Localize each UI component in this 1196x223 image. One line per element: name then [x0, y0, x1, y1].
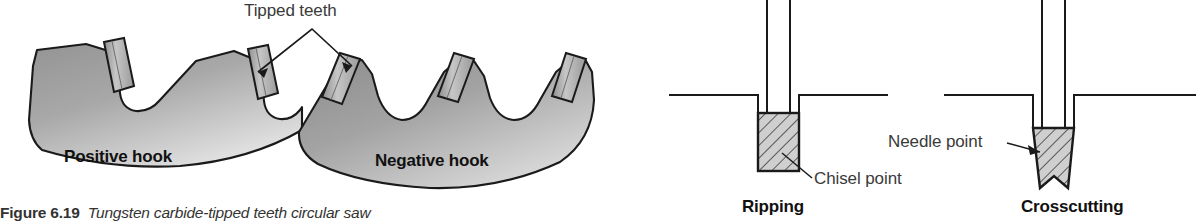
figure-caption-text: Tungsten carbide-tipped teeth circular s… — [88, 204, 371, 221]
needle-point-tooth — [1033, 128, 1074, 188]
label-needle-point: Needle point — [888, 133, 982, 150]
crosscutting-diagram — [944, 0, 1196, 188]
tooth-point-diagram — [0, 0, 1196, 223]
crosscut-kerf-right — [1074, 95, 1196, 128]
label-tipped-teeth: Tipped teeth — [244, 2, 337, 19]
crosscut-kerf-left — [944, 95, 1033, 128]
label-chisel-point: Chisel point — [814, 170, 902, 187]
figure-caption: Figure 6.19 Tungsten carbide-tipped teet… — [0, 205, 370, 221]
label-positive-hook: Positive hook — [64, 148, 172, 165]
label-ripping: Ripping — [742, 198, 804, 215]
label-crosscutting: Crosscutting — [1021, 198, 1123, 215]
ripping-kerf-right — [799, 95, 888, 113]
figure-caption-number: Figure 6.19 — [0, 204, 80, 221]
figure-caption-spacer — [80, 204, 88, 221]
ripping-kerf-left — [669, 95, 758, 113]
ripping-diagram — [669, 0, 888, 178]
label-negative-hook: Negative hook — [375, 152, 489, 169]
figure-6-19: Tipped teeth Positive hook Negative hook… — [0, 0, 1196, 223]
